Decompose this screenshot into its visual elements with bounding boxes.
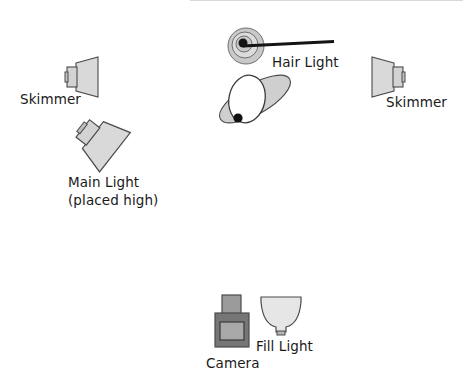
fill-light-label: Fill Light: [256, 338, 313, 355]
top-divider-line: [190, 0, 463, 1]
skimmer-right-icon[interactable]: [362, 55, 408, 99]
main-light-label-line1: Main Light: [68, 174, 139, 191]
camera-icon[interactable]: [210, 294, 254, 350]
main-light-icon[interactable]: [68, 118, 134, 180]
camera-label: Camera: [206, 355, 260, 372]
main-light-label-line2: (placed high): [68, 192, 158, 209]
fill-light-icon[interactable]: [257, 294, 305, 338]
subject-figure: [210, 64, 300, 134]
skimmer-right-label: Skimmer: [386, 94, 447, 111]
skimmer-left-label: Skimmer: [20, 91, 81, 108]
lighting-setup-diagram: Hair Light Skimmer Sk: [0, 0, 463, 390]
